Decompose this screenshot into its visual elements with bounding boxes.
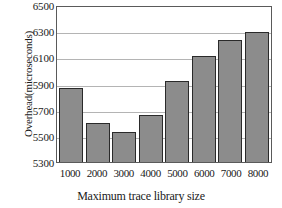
bar bbox=[59, 88, 83, 162]
x-tick-label: 2000 bbox=[85, 166, 109, 182]
y-tick-label: 6300 bbox=[14, 27, 54, 38]
bar bbox=[165, 81, 189, 162]
bar bbox=[86, 123, 110, 162]
x-tick-label: 8000 bbox=[246, 166, 270, 182]
x-tick-label: 3000 bbox=[112, 166, 136, 182]
y-axis-tick-labels: 5300550057005900610063006500 bbox=[14, 0, 54, 208]
bar bbox=[112, 132, 136, 162]
bar bbox=[139, 115, 163, 162]
bar bbox=[245, 32, 269, 162]
x-tick-label: 6000 bbox=[192, 166, 216, 182]
y-tick-label: 5700 bbox=[14, 105, 54, 116]
plot-area bbox=[56, 6, 272, 163]
bar bbox=[218, 40, 242, 162]
bar-chart-figure: Overhead(microseconds) 53005500570059006… bbox=[0, 0, 282, 208]
bar-series bbox=[57, 7, 271, 162]
bar bbox=[192, 56, 216, 162]
x-tick-label: 7000 bbox=[219, 166, 243, 182]
x-tick-label: 4000 bbox=[139, 166, 163, 182]
y-tick-label: 5900 bbox=[14, 79, 54, 90]
x-tick-label: 5000 bbox=[165, 166, 189, 182]
x-tick-label: 1000 bbox=[58, 166, 82, 182]
y-tick-label: 6500 bbox=[14, 1, 54, 12]
y-tick-label: 5300 bbox=[14, 158, 54, 169]
y-tick-label: 5500 bbox=[14, 131, 54, 142]
y-tick-label: 6100 bbox=[14, 53, 54, 64]
x-axis-tick-labels: 10002000300040005000600070008000 bbox=[56, 166, 272, 182]
x-axis-title: Maximum trace library size bbox=[0, 189, 282, 204]
